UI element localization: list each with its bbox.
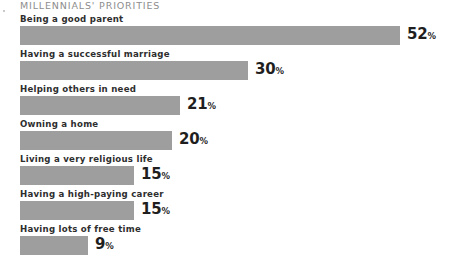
bar-line: 30% [20, 61, 284, 80]
bar-row-label: Having a successful marriage [20, 49, 170, 60]
bar-line: 21% [20, 96, 216, 115]
bar-row: Having lots of free time 9% [0, 224, 455, 259]
bar-row: Helping others in need 21% [0, 84, 455, 119]
bar-fill [20, 236, 88, 255]
bar-fill [20, 96, 180, 115]
bar-row: Having a successful marriage 30% [0, 49, 455, 84]
page-artifact-speck [3, 10, 5, 12]
bar-value: 30% [255, 62, 284, 79]
bar-line: 20% [20, 131, 208, 150]
bar-line: 15% [20, 201, 170, 220]
bar-rows: Being a good parent 52% Having a success… [0, 14, 455, 259]
bar-fill [20, 26, 400, 45]
bar-row: Owning a home 20% [0, 119, 455, 154]
bar-value-number: 15 [141, 200, 161, 218]
bar-value: 15% [141, 202, 170, 219]
bar-fill [20, 201, 134, 220]
percent-sign: % [161, 171, 170, 181]
percent-sign: % [105, 241, 114, 251]
bar-fill [20, 166, 134, 185]
bar-line: 15% [20, 166, 170, 185]
bar-value-number: 20 [179, 130, 199, 148]
bar-row: Having a high-paying career 15% [0, 189, 455, 224]
bar-value-number: 15 [141, 165, 161, 183]
millennials-priorities-chart: MILLENNIALS' PRIORITIES Being a good par… [0, 0, 455, 263]
percent-sign: % [207, 101, 216, 111]
bar-row-label: Being a good parent [20, 14, 123, 25]
bar-value: 20% [179, 132, 208, 149]
percent-sign: % [161, 206, 170, 216]
chart-title: MILLENNIALS' PRIORITIES [20, 0, 160, 12]
bar-value: 9% [95, 237, 114, 254]
bar-value-number: 21 [187, 95, 207, 113]
bar-value-number: 30 [255, 60, 275, 78]
bar-row-label: Living a very religious life [20, 154, 153, 165]
bar-value: 52% [407, 27, 436, 44]
bar-value: 21% [187, 97, 216, 114]
bar-row-label: Having a high-paying career [20, 189, 164, 200]
bar-line: 9% [20, 236, 114, 255]
bar-line: 52% [20, 26, 436, 45]
bar-fill [20, 131, 172, 150]
bar-value: 15% [141, 167, 170, 184]
bar-row: Living a very religious life 15% [0, 154, 455, 189]
bar-value-number: 9 [95, 235, 105, 253]
percent-sign: % [199, 136, 208, 146]
bar-row-label: Helping others in need [20, 84, 136, 95]
bar-row-label: Having lots of free time [20, 224, 141, 235]
bar-value-number: 52 [407, 25, 427, 43]
bar-fill [20, 61, 248, 80]
bar-row-label: Owning a home [20, 119, 98, 130]
bar-row: Being a good parent 52% [0, 14, 455, 49]
percent-sign: % [275, 66, 284, 76]
percent-sign: % [427, 31, 436, 41]
